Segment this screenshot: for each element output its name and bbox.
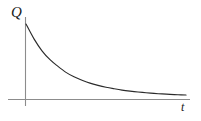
- y-axis-label: Q: [11, 5, 22, 20]
- decay-curve: [26, 24, 186, 95]
- exponential-decay-figure: Q t: [0, 0, 201, 121]
- plot-canvas: [0, 0, 201, 121]
- x-axis-label: t: [181, 101, 184, 113]
